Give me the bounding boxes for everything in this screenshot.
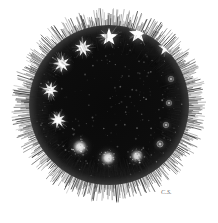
engraving-plate: C.S. [0,0,218,223]
field-object [161,95,176,110]
field-object [151,135,168,152]
artist-signature: C.S. [161,189,172,195]
field-object [158,117,173,132]
field-object [38,78,63,103]
disc-illustration [9,8,209,204]
telescopic-field-disc [9,8,209,204]
